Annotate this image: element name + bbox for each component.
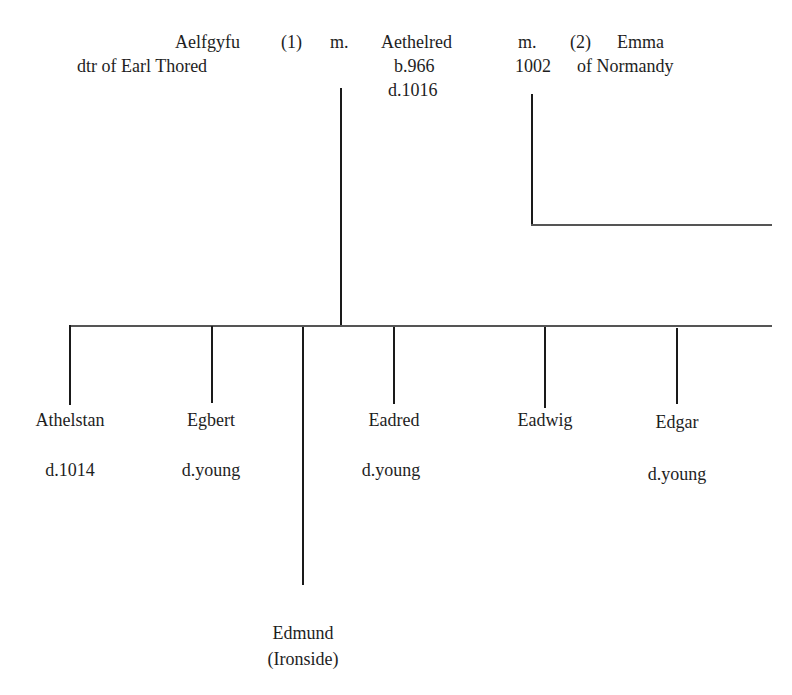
child-edgar-name: Edgar <box>656 412 699 432</box>
marriage-2-label: m. <box>518 32 537 52</box>
child-eadwig-name: Eadwig <box>518 410 573 430</box>
egbert-line <box>211 326 213 403</box>
aethelred-born: b.966 <box>394 56 435 76</box>
child-edmund-note: (Ironside) <box>268 649 339 669</box>
marriage-1-label: m. <box>330 32 349 52</box>
aelfgyfu-name: Aelfgyfu <box>175 32 240 52</box>
child-eadred-note: d.young <box>362 460 421 480</box>
aethelred-died: d.1016 <box>388 80 438 100</box>
aelfgyfu-note: dtr of Earl Thored <box>77 56 207 76</box>
child-edmund-name: Edmund <box>273 623 334 643</box>
child-egbert-name: Egbert <box>187 410 235 430</box>
second-marriage-descent-line <box>531 94 533 226</box>
edgar-line <box>676 328 678 404</box>
athelstan-line <box>69 325 71 405</box>
child-athelstan-name: Athelstan <box>36 410 105 430</box>
child-edgar-note: d.young <box>648 464 707 484</box>
aethelred-name: Aethelred <box>381 32 452 52</box>
emma-note: of Normandy <box>577 56 673 76</box>
marriage-order-2: (2) <box>570 32 591 52</box>
first-marriage-descent-line <box>340 88 342 327</box>
marriage-order-1: (1) <box>281 32 302 52</box>
second-marriage-branch-line <box>531 224 772 226</box>
emma-name: Emma <box>617 32 664 52</box>
child-eadred-name: Eadred <box>369 410 420 430</box>
eadwig-line <box>544 327 546 408</box>
child-athelstan-note: d.1014 <box>45 460 95 480</box>
marriage-2-year: 1002 <box>515 56 551 76</box>
children-branch-line <box>70 325 772 327</box>
child-egbert-note: d.young <box>182 460 241 480</box>
eadred-line <box>393 327 395 404</box>
edmund-line <box>302 327 304 585</box>
